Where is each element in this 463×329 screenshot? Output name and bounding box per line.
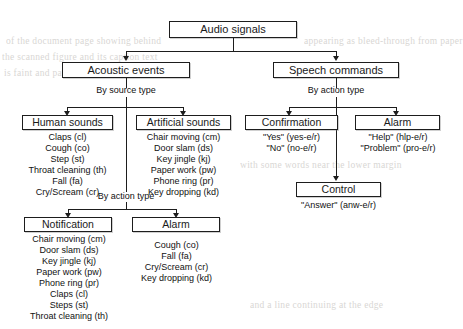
list-human-sounds: Claps (cl) Cough (co) Step (st) Throat c…	[3, 132, 132, 198]
node-confirmation[interactable]: Confirmation	[245, 115, 338, 130]
node-alarm-speech-label: Alarm	[384, 117, 411, 128]
list-control: "Answer" (anw-e/r)	[288, 200, 389, 211]
node-confirmation-label: Confirmation	[262, 117, 322, 128]
arrow-to-speech-commands	[333, 56, 339, 61]
edge-label-by-action-type-acoustic: By action type	[76, 191, 176, 201]
node-control-label: Control	[322, 184, 356, 195]
node-speech-commands[interactable]: Speech commands	[273, 62, 399, 78]
node-human-sounds-label: Human sounds	[32, 117, 103, 128]
list-alarm-acoustic: Cough (co) Fall (fa) Cry/Scream (cr) Key…	[126, 240, 227, 284]
edge-root-bus	[126, 51, 336, 52]
node-audio-signals-label: Audio signals	[200, 24, 265, 35]
list-notification: Chair moving (cm) Door slam (ds) Key jin…	[10, 234, 128, 322]
edge-speech-stem-lower	[336, 97, 337, 107]
node-acoustic-events-label: Acoustic events	[87, 65, 164, 76]
node-artificial-sounds-label: Artificial sounds	[147, 117, 221, 128]
edge-label-by-source-type: By source type	[76, 85, 176, 95]
node-alarm-speech[interactable]: Alarm	[355, 115, 440, 130]
edge-acoustic-stem-lower	[126, 97, 127, 107]
edge-acoustic-action-bus	[68, 209, 177, 210]
background-bleed-text: the scanned figure and its caption text	[2, 52, 158, 62]
list-alarm-acoustic-items: Cough (co) Fall (fa) Cry/Scream (cr) Key…	[141, 240, 212, 283]
node-speech-commands-label: Speech commands	[289, 65, 383, 76]
node-alarm-acoustic-label: Alarm	[162, 219, 189, 230]
node-control[interactable]: Control	[296, 182, 381, 197]
node-audio-signals[interactable]: Audio signals	[169, 21, 297, 38]
list-confirmation-items: "Yes" (yes-e/r) "No" (no-e/r)	[263, 132, 320, 153]
list-notification-items: Chair moving (cm) Door slam (ds) Key jin…	[30, 234, 108, 321]
list-human-sounds-items: Claps (cl) Cough (co) Step (st) Throat c…	[28, 132, 106, 197]
list-artificial-sounds-items: Chair moving (cm) Door slam (ds) Key jin…	[147, 132, 221, 197]
node-notification-label: Notification	[42, 219, 94, 230]
arrow-to-control	[333, 176, 339, 181]
list-alarm-speech: "Help" (hlp-e/r) "Problem" (pro-e/r)	[343, 132, 453, 154]
node-human-sounds[interactable]: Human sounds	[22, 115, 113, 130]
node-notification[interactable]: Notification	[24, 217, 112, 232]
edge-speech-bus	[289, 107, 397, 108]
edge-acoustic-action-stem	[126, 202, 127, 209]
edge-root-stem	[233, 38, 234, 51]
list-alarm-speech-items: "Help" (hlp-e/r) "Problem" (pro-e/r)	[361, 132, 436, 153]
list-artificial-sounds: Chair moving (cm) Door slam (ds) Key jin…	[124, 132, 243, 198]
background-bleed-text: with some words near the lower margin	[240, 160, 402, 170]
background-bleed-text: and a line continuing at the edge	[250, 300, 383, 310]
node-alarm-acoustic[interactable]: Alarm	[132, 217, 220, 232]
node-acoustic-events[interactable]: Acoustic events	[62, 62, 190, 78]
list-confirmation: "Yes" (yes-e/r) "No" (no-e/r)	[240, 132, 343, 154]
edge-label-by-action-type-right: By action type	[286, 85, 386, 95]
background-bleed-text: of the document page showing behind	[6, 36, 161, 46]
list-control-items: "Answer" (anw-e/r)	[301, 200, 376, 210]
background-bleed-text: appearing as bleed-through from paper	[304, 36, 463, 46]
node-artificial-sounds[interactable]: Artificial sounds	[136, 115, 231, 130]
arrow-to-acoustic-events	[123, 56, 129, 61]
